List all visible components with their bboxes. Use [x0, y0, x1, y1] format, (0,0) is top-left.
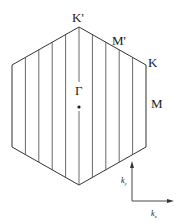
coordinate-axes [130, 161, 174, 203]
label-m: M [151, 96, 163, 111]
label-m-prime: M' [112, 33, 126, 48]
label-ky: ky [121, 176, 128, 186]
label-k: K [148, 55, 158, 70]
label-kx: kx [151, 209, 158, 219]
ky-arrowhead-icon [130, 161, 134, 168]
label-gamma: Γ [75, 83, 83, 98]
brillouin-zone-diagram: K' M' K M Γ ky kx [0, 0, 183, 223]
kx-arrowhead-icon [167, 199, 174, 203]
label-k-prime: K' [72, 10, 84, 25]
gamma-point-dot [77, 105, 80, 108]
